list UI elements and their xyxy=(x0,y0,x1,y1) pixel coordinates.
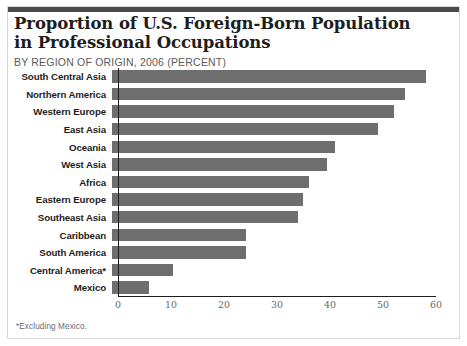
bar-track xyxy=(112,209,446,227)
bar-row: Africa xyxy=(14,174,446,192)
bar-track xyxy=(112,279,446,297)
bar-track xyxy=(112,103,446,121)
x-tick-label: 40 xyxy=(324,299,336,310)
x-tick-label: 60 xyxy=(430,299,442,310)
plot-area: South Central AsiaNorthern AmericaWester… xyxy=(14,68,446,313)
page-title-line1: Proportion of U.S. Foreign-Born Populati… xyxy=(14,15,434,34)
bar xyxy=(112,88,405,100)
x-tick-label: 20 xyxy=(218,299,230,310)
chart-page: Proportion of U.S. Foreign-Born Populati… xyxy=(0,0,467,346)
bar xyxy=(112,105,394,117)
category-label: Southeast Asia xyxy=(14,212,112,223)
bar-track xyxy=(112,86,446,104)
bar xyxy=(112,211,298,223)
category-label: South America xyxy=(14,247,112,258)
category-label: East Asia xyxy=(14,124,112,135)
bar xyxy=(112,229,246,241)
bar xyxy=(112,246,246,258)
bar-row: Western Europe xyxy=(14,103,446,121)
category-label: Eastern Europe xyxy=(14,194,112,205)
bar-track xyxy=(112,68,446,86)
bar-rows: South Central AsiaNorthern AmericaWester… xyxy=(14,68,446,296)
bar-row: East Asia xyxy=(14,121,446,139)
page-title-line2: in Professional Occupations xyxy=(14,34,434,53)
bar-track xyxy=(112,156,446,174)
bar-row: Southeast Asia xyxy=(14,209,446,227)
category-label: West Asia xyxy=(14,159,112,170)
category-label: Western Europe xyxy=(14,106,112,117)
category-label: Africa xyxy=(14,177,112,188)
x-tick-label: 0 xyxy=(115,299,121,310)
bar-row: South America xyxy=(14,244,446,262)
bar xyxy=(112,70,426,82)
bar xyxy=(112,193,303,205)
bar-row: Mexico xyxy=(14,279,446,297)
bar-row: Caribbean xyxy=(14,226,446,244)
bar-row: Eastern Europe xyxy=(14,191,446,209)
category-label: Oceania xyxy=(14,142,112,153)
title-block: Proportion of U.S. Foreign-Born Populati… xyxy=(14,15,434,69)
bar-track xyxy=(112,244,446,262)
bar-row: West Asia xyxy=(14,156,446,174)
category-label: Northern America xyxy=(14,89,112,100)
bar xyxy=(112,176,309,188)
bar-row: Central America* xyxy=(14,262,446,280)
x-tick-label: 50 xyxy=(377,299,389,310)
bar-track xyxy=(112,226,446,244)
bar xyxy=(112,141,335,153)
bar-row: Oceania xyxy=(14,138,446,156)
y-axis-line xyxy=(118,68,119,296)
bar-row: South Central Asia xyxy=(14,68,446,86)
bar-track xyxy=(112,138,446,156)
bar-track xyxy=(112,174,446,192)
x-axis-line xyxy=(118,296,436,297)
bar-track xyxy=(112,191,446,209)
bar-track xyxy=(112,262,446,280)
footnote: *Excluding Mexico. xyxy=(16,322,87,331)
x-tick-label: 30 xyxy=(271,299,283,310)
bar xyxy=(112,264,173,276)
category-label: Caribbean xyxy=(14,230,112,241)
bar-track xyxy=(112,121,446,139)
bar xyxy=(112,123,378,135)
category-label: Mexico xyxy=(14,282,112,293)
category-label: South Central Asia xyxy=(14,71,112,82)
category-label: Central America* xyxy=(14,265,112,276)
bar-row: Northern America xyxy=(14,86,446,104)
top-rule-divider xyxy=(8,7,459,12)
x-tick-label: 10 xyxy=(165,299,177,310)
bar xyxy=(112,158,327,170)
x-axis-ticks: 0102030405060 xyxy=(118,299,436,315)
